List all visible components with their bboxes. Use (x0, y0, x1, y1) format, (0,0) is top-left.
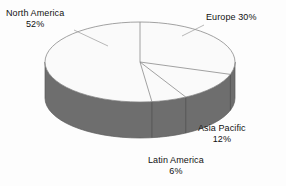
slice-label-latin-america-percent: 6% (148, 166, 204, 177)
slice-label-europe-name: Europe 30% (206, 12, 257, 22)
slice-label-latin-america-name: Latin America (148, 155, 204, 165)
pie-chart: North America 52% Europe 30% Asia Pacifi… (0, 0, 286, 186)
slice-label-north-america-percent: 52% (6, 19, 64, 30)
slice-label-north-america-name: North America (6, 8, 64, 18)
slice-label-europe: Europe 30% (206, 12, 257, 23)
slice-label-asia-pacific-name: Asia Pacific (198, 123, 246, 133)
slice-label-latin-america: Latin America 6% (148, 155, 204, 177)
pie-top-face-group (45, 22, 235, 102)
slice-label-asia-pacific: Asia Pacific 12% (198, 123, 246, 145)
slice-label-north-america: North America 52% (6, 8, 64, 30)
slice-label-asia-pacific-percent: 12% (198, 134, 246, 145)
